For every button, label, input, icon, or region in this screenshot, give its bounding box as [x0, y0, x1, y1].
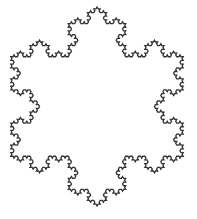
koch-snowflake-figure	[0, 0, 197, 219]
koch-snowflake-outline	[11, 7, 183, 206]
